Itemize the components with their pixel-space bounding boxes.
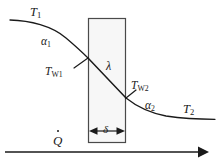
tw1-leader-line (74, 58, 88, 68)
label-tw2: TW2 (131, 80, 149, 92)
label-tw1: TW1 (45, 66, 63, 78)
label-qdot: Q (53, 134, 62, 147)
heat-flow-arrowhead (198, 147, 209, 158)
label-alpha2: α2 (145, 100, 155, 112)
label-lambda-base: λ (106, 59, 111, 73)
label-tw1-sub: W1 (51, 70, 62, 79)
label-alpha2-sub: 2 (151, 104, 155, 113)
label-delta: δ (103, 124, 108, 135)
label-alpha1-sub: 1 (47, 40, 51, 49)
diagram-canvas (0, 0, 223, 164)
right-temperature-curve (126, 98, 215, 119)
label-t1: T1 (30, 6, 41, 19)
label-t2: T2 (183, 103, 194, 116)
label-qdot-base: Q (53, 133, 62, 148)
label-lambda: λ (106, 60, 111, 72)
label-t2-base: T (183, 102, 190, 116)
label-tw2-sub: W2 (137, 84, 148, 93)
heat-transfer-wall-diagram: T1 α1 TW1 λ TW2 α2 T2 δ Q (0, 0, 223, 164)
label-t1-sub: 1 (37, 10, 41, 20)
label-delta-base: δ (103, 123, 108, 135)
label-alpha1: α1 (41, 36, 51, 48)
label-qdot-symbol: Q (53, 134, 62, 147)
qdot-overdot (57, 130, 59, 132)
label-t2-sub: 2 (190, 107, 194, 117)
label-t1-base: T (30, 5, 37, 19)
